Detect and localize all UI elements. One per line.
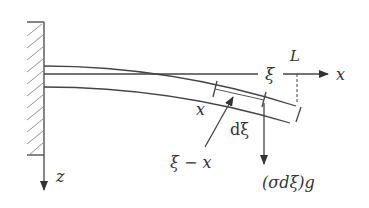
deflected-beam-top [44,66,296,106]
label-xi-axis: ξ [265,64,276,84]
label-d-xi: dξ [230,120,249,139]
deflected-beam-bottom [44,87,290,123]
fixed-wall [27,22,44,155]
label-x-axis: x [336,65,345,84]
beam-diagram: ξ L x x dξ ξ − x (σdξ)g z [0,0,369,208]
label-x-point: x [196,100,205,119]
beam-element-dxi [213,81,266,107]
wall-hatching [27,24,43,155]
label-L: L [289,47,300,65]
label-z-axis: z [55,167,65,186]
label-force: (σdξ)g [262,173,315,192]
label-xi-minus-x: ξ − x [170,153,211,172]
beam-end [296,107,301,122]
